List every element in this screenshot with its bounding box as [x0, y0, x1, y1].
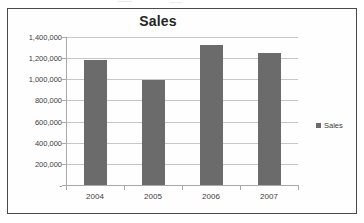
plot-area [66, 37, 298, 185]
x-axis-tick [182, 185, 183, 190]
x-axis-tick [240, 185, 241, 190]
x-axis-tick-label: 2005 [124, 192, 182, 201]
chart-legend: Sales [316, 121, 343, 130]
bar[interactable] [142, 80, 165, 185]
x-axis-tick [124, 185, 125, 190]
gridline [66, 37, 298, 38]
x-axis-tick [298, 185, 299, 190]
sales-bar-chart: Sales -200,000400,000600,000800,0001,000… [0, 0, 364, 223]
x-axis-tick-label: 2004 [66, 192, 124, 201]
scan-artifact [170, 2, 182, 3]
legend-label: Sales [324, 121, 343, 130]
bar[interactable] [200, 45, 223, 185]
y-axis-ticks [0, 37, 70, 186]
chart-title: Sales [8, 13, 308, 29]
legend-swatch-icon [316, 123, 321, 128]
bar[interactable] [84, 60, 107, 185]
x-axis-tick-label: 2006 [182, 192, 240, 201]
y-axis-line [66, 37, 67, 186]
x-axis-tick [66, 185, 67, 190]
bar[interactable] [258, 53, 281, 185]
x-axis-tick-label: 2007 [240, 192, 298, 201]
scan-artifact [118, 1, 132, 2]
